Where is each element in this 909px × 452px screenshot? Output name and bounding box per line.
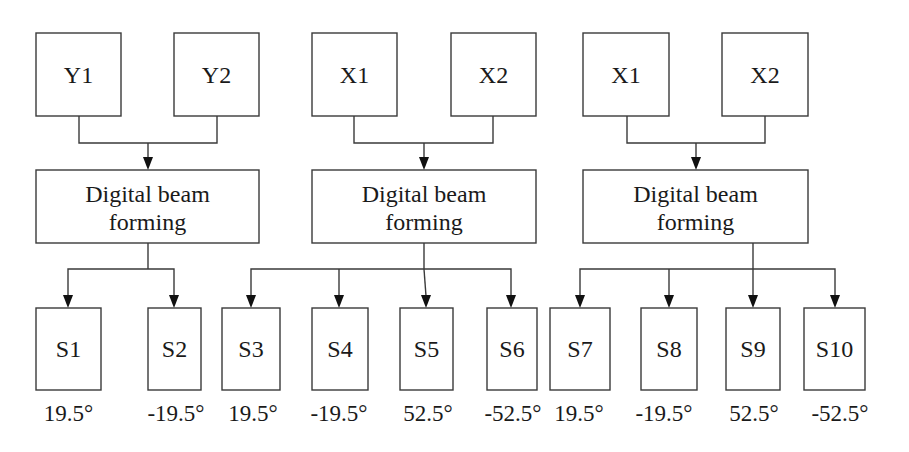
input-label-x2: X2 bbox=[479, 62, 508, 88]
arrow-down-icon bbox=[143, 157, 153, 170]
angle-label-s10: -52.5° bbox=[811, 401, 868, 426]
angle-label-s9: 52.5° bbox=[729, 401, 778, 426]
output-label-s2: S2 bbox=[162, 336, 187, 362]
output-label-s3: S3 bbox=[238, 336, 263, 362]
output-label-s4: S4 bbox=[327, 336, 352, 362]
output-label-s5: S5 bbox=[414, 336, 439, 362]
dbf-label-line2: forming bbox=[385, 209, 462, 235]
arrow-down-icon bbox=[691, 157, 701, 170]
arrow-down-icon bbox=[246, 295, 256, 308]
input-label-y2: Y2 bbox=[202, 62, 231, 88]
arrow-down-icon bbox=[748, 295, 758, 308]
angle-label-s3: 19.5° bbox=[228, 401, 277, 426]
angle-label-s8: -19.5° bbox=[635, 401, 692, 426]
group-2: X1 X2 Digital beam forming S3 19.5° S4 -… bbox=[222, 33, 542, 426]
dbf-label-line2: forming bbox=[657, 209, 734, 235]
output-label-s1: S1 bbox=[56, 336, 81, 362]
angle-label-s5: 52.5° bbox=[403, 401, 452, 426]
output-connector bbox=[68, 269, 174, 296]
connector-line bbox=[424, 269, 426, 296]
dbf-label-line2: forming bbox=[109, 209, 186, 235]
angle-label-s1: 19.5° bbox=[44, 401, 93, 426]
arrow-down-icon bbox=[63, 295, 73, 308]
beamforming-diagram: Y1 Y2 Digital beam forming S1 19.5° S2 -… bbox=[0, 0, 909, 452]
input-label-y1: Y1 bbox=[64, 62, 93, 88]
input-connector bbox=[79, 116, 217, 143]
input-label-x1: X1 bbox=[340, 62, 369, 88]
angle-label-s7: 19.5° bbox=[554, 401, 603, 426]
arrow-down-icon bbox=[334, 295, 344, 308]
arrow-down-icon bbox=[830, 295, 840, 308]
arrow-down-icon bbox=[506, 295, 516, 308]
output-label-s8: S8 bbox=[656, 336, 681, 362]
arrow-down-icon bbox=[421, 295, 431, 308]
output-connector bbox=[580, 269, 835, 296]
dbf-label-line1: Digital beam bbox=[85, 181, 210, 207]
arrow-down-icon bbox=[419, 157, 429, 170]
output-label-s7: S7 bbox=[567, 336, 592, 362]
input-label-x2: X2 bbox=[750, 62, 779, 88]
dbf-label-line1: Digital beam bbox=[633, 181, 758, 207]
input-connector bbox=[627, 116, 765, 143]
output-label-s9: S9 bbox=[740, 336, 765, 362]
output-label-s6: S6 bbox=[499, 336, 524, 362]
angle-label-s4: -19.5° bbox=[310, 401, 367, 426]
angle-label-s2: -19.5° bbox=[147, 401, 204, 426]
arrow-down-icon bbox=[169, 295, 179, 308]
output-connector bbox=[251, 269, 511, 296]
angle-label-s6: -52.5° bbox=[484, 401, 541, 426]
dbf-label-line1: Digital beam bbox=[362, 181, 487, 207]
arrow-down-icon bbox=[664, 295, 674, 308]
output-label-s10: S10 bbox=[816, 336, 853, 362]
input-connector bbox=[354, 116, 493, 143]
group-3: X1 X2 Digital beam forming S7 19.5° S8 -… bbox=[550, 33, 869, 426]
input-label-x1: X1 bbox=[611, 62, 640, 88]
arrow-down-icon bbox=[575, 295, 585, 308]
